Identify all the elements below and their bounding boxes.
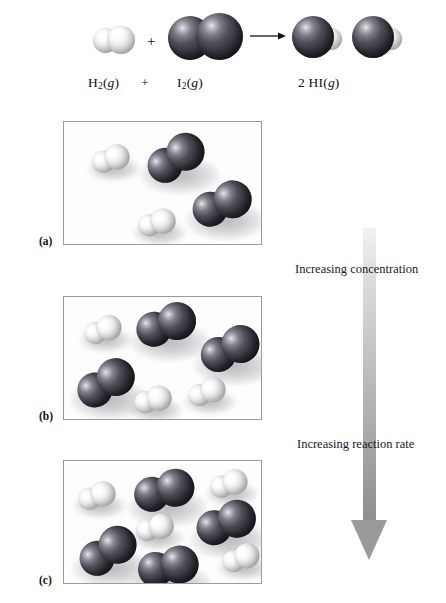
molecule-h2 bbox=[135, 205, 180, 240]
molecule-i2 bbox=[140, 125, 215, 192]
panel-b-label: (b) bbox=[39, 410, 53, 422]
molecule-h2 bbox=[89, 140, 135, 177]
increasing-concentration-label: Increasing concentration bbox=[295, 262, 418, 277]
panel-b-contents bbox=[64, 297, 261, 419]
molecule-hi-product-1 bbox=[292, 16, 346, 64]
label-text-h2: H2(g) bbox=[88, 75, 119, 90]
equation-label-h2: H2(g) bbox=[88, 75, 119, 91]
right-arrow-icon bbox=[250, 30, 286, 42]
down-arrow-icon bbox=[349, 228, 389, 563]
molecule-h2 bbox=[75, 477, 121, 514]
panel-a bbox=[63, 121, 262, 245]
equation-label-i2: I2(g) bbox=[177, 75, 203, 91]
molecule-i2 bbox=[194, 319, 262, 381]
label-text-i2: I2(g) bbox=[177, 75, 203, 90]
molecule-h2 bbox=[185, 373, 231, 411]
molecule-i2 bbox=[70, 351, 144, 417]
molecule-i2 bbox=[187, 175, 260, 236]
increasing-reaction-rate-label: Increasing reaction rate bbox=[297, 437, 414, 452]
equation-label-plus: + bbox=[141, 75, 149, 91]
panel-b bbox=[63, 296, 262, 420]
panel-c-label: (c) bbox=[39, 574, 52, 586]
panel-c bbox=[63, 460, 262, 584]
equation-plus-1: + bbox=[147, 33, 155, 50]
atom-iodine bbox=[196, 13, 243, 60]
panel-a-label: (a) bbox=[39, 235, 52, 247]
panel-c-contents bbox=[64, 461, 261, 583]
atom-hydrogen bbox=[107, 26, 135, 54]
molecule-h2 bbox=[81, 311, 127, 349]
atom-iodine bbox=[352, 16, 394, 58]
chemical-equation: + H2(g) + I2(g) 2 HI(g) bbox=[0, 0, 446, 105]
label-text-hi: 2 HI(g) bbox=[298, 75, 340, 90]
molecule-i2-reactant bbox=[168, 13, 244, 65]
equation-label-hi: 2 HI(g) bbox=[298, 75, 340, 91]
molecule-i2 bbox=[135, 543, 202, 584]
atom-iodine bbox=[292, 16, 334, 58]
molecule-h2-reactant bbox=[93, 26, 139, 56]
molecule-i2 bbox=[131, 297, 202, 354]
panel-a-contents bbox=[64, 122, 261, 244]
molecule-i2 bbox=[130, 465, 199, 519]
molecule-hi-product-2 bbox=[352, 16, 406, 64]
